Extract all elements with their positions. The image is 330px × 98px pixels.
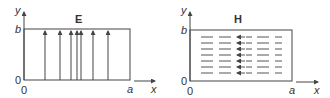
x-end-label: a (127, 83, 133, 95)
x-origin-label: 0 (21, 84, 27, 96)
y-axis-label: y (14, 4, 22, 16)
e-field-arrows (45, 31, 108, 80)
h-field-title: H (234, 13, 242, 25)
x-end-label: a (289, 84, 295, 96)
e-field-panel: y b 0 0 a x E (14, 4, 157, 96)
x-axis-label: x (150, 83, 157, 95)
e-field-title: E (75, 13, 82, 25)
h-field-panel: y b 0 0 a x H (180, 4, 320, 97)
h-field-lines (201, 37, 282, 73)
y-axis-label: y (180, 4, 188, 16)
x-origin-label: 0 (187, 85, 193, 97)
x-axis-label: x (313, 84, 320, 96)
y-top-label: b (15, 23, 21, 35)
field-diagrams: y b 0 0 a x E (0, 0, 330, 98)
y-top-label: b (181, 24, 187, 36)
